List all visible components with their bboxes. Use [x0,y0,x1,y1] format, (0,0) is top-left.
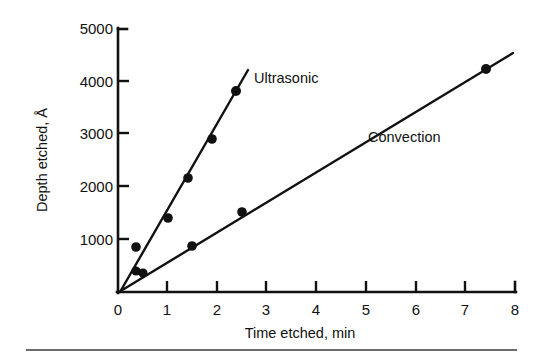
series-label-convection: Convection [368,129,441,145]
data-point [138,268,147,277]
x-tick-label-7: 7 [461,301,469,318]
ultrasonic-fit-line [120,70,248,292]
y-tick-label-1000: 1000 [80,231,113,248]
x-tick-label-2: 2 [213,301,221,318]
x-tick-label-3: 3 [262,301,270,318]
etch-depth-scatter-chart: 5000 4000 3000 2000 1000 0 1 2 3 4 5 6 7 [0,0,542,356]
y-axis-ticks [118,81,129,239]
y-tick-label-5000: 5000 [80,20,113,37]
y-axis-title: Depth etched, Å [34,108,50,212]
x-tick-label-4: 4 [312,301,320,318]
data-point [131,242,141,252]
ultrasonic-data-points [131,86,241,276]
data-point [163,213,173,223]
data-point [183,173,193,183]
convection-data-points [138,64,491,278]
data-point [187,241,197,251]
convection-fit-line [119,53,513,292]
y-tick-label-3000: 3000 [80,125,113,142]
x-tick-label-5: 5 [362,301,370,318]
y-axis [118,28,127,293]
x-tick-label-0: 0 [114,301,122,318]
x-axis-tick-labels: 0 1 2 3 4 5 6 7 8 [114,301,519,318]
data-point [207,134,217,144]
data-point [481,64,491,74]
figure-container: 5000 4000 3000 2000 1000 0 1 2 3 4 5 6 7 [0,0,542,356]
y-tick-label-4000: 4000 [80,73,113,90]
data-point [231,86,241,96]
y-tick-label-2000: 2000 [80,178,113,195]
x-axis-title: Time etched, min [245,325,356,341]
x-tick-label-8: 8 [511,301,519,318]
series-label-ultrasonic: Ultrasonic [254,70,318,86]
x-axis-ticks [167,281,465,292]
x-tick-label-6: 6 [412,301,420,318]
y-axis-tick-labels: 5000 4000 3000 2000 1000 [80,20,113,248]
data-point [237,207,247,217]
x-tick-label-1: 1 [163,301,171,318]
